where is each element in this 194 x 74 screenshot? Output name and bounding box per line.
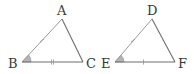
- vertex-label-c: C: [86, 56, 96, 71]
- vertex-label-f: F: [178, 56, 187, 71]
- side-ac: [62, 19, 83, 62]
- triangle-def: D E F: [101, 3, 187, 71]
- triangle-abc: A B C: [8, 3, 96, 71]
- side-df: [152, 19, 175, 62]
- side-ab-tick: [40, 39, 44, 42]
- vertex-label-d: D: [147, 3, 157, 18]
- vertex-label-a: A: [56, 3, 67, 18]
- vertex-label-b: B: [8, 56, 18, 71]
- congruent-triangles-diagram: A B C D E F: [0, 0, 194, 74]
- vertex-label-e: E: [101, 56, 111, 71]
